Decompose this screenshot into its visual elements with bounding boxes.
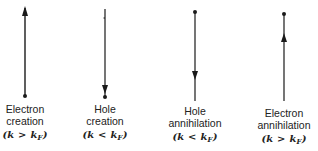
- arrow-down-icon: [102, 85, 108, 94]
- label-hole-creation: Hole creation (k < kF): [60, 103, 150, 144]
- arrow-up-icon: [281, 33, 287, 42]
- electron-creation-diagram: [22, 6, 28, 98]
- vertex-dot: [282, 12, 286, 16]
- label-condition: (k < kF): [60, 129, 150, 144]
- hole-annihilation-diagram: [192, 10, 198, 101]
- hole-creation-diagram: [102, 9, 108, 99]
- label-condition: (k < kF): [150, 131, 240, 146]
- vertex-dot: [103, 95, 107, 99]
- label-title-line1: Electron: [239, 107, 318, 119]
- label-title-line2: annihilation: [150, 117, 240, 129]
- vertex-dot: [23, 94, 27, 98]
- label-title-line2: creation: [60, 115, 150, 127]
- vertex-dot: [193, 10, 197, 14]
- electron-annihilation-diagram: [281, 12, 287, 101]
- arrow-up-icon: [22, 6, 28, 16]
- label-title-line2: annihilation: [239, 119, 318, 131]
- label-title-line1: Hole: [60, 103, 150, 115]
- arrow-down-icon: [192, 71, 198, 80]
- label-condition: (k > kF): [239, 133, 318, 148]
- label-electron-annihilation: Electron annihilation (k > kF): [239, 107, 318, 148]
- label-hole-annihilation: Hole annihilation (k < kF): [150, 105, 240, 146]
- label-title-line1: Hole: [150, 105, 240, 117]
